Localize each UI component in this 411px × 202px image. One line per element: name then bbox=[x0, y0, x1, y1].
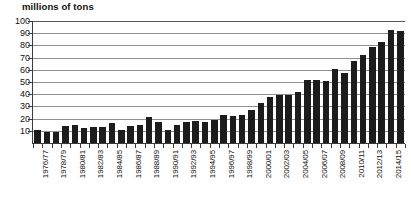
bar bbox=[192, 121, 199, 143]
x-axis-tick-label: 2000/01 bbox=[264, 150, 273, 178]
gridline bbox=[33, 82, 405, 83]
x-axis-tick-label: 1996/97 bbox=[227, 150, 236, 178]
x-axis-tick-label: 2012/13 bbox=[375, 150, 384, 178]
x-axis-tick-label: 2006/07 bbox=[320, 150, 329, 178]
x-axis-tick-label: 1980/81 bbox=[78, 150, 87, 178]
x-axis-tick-label: 2004/05 bbox=[301, 150, 310, 178]
bar bbox=[109, 123, 116, 143]
x-axis-tick-label: 1976/77 bbox=[41, 150, 50, 178]
bar bbox=[183, 122, 190, 143]
x-axis-tick-labels: 1976/771978/791980/811982/831984/851986/… bbox=[33, 150, 405, 202]
x-axis-tick-mark bbox=[33, 144, 34, 148]
x-axis-tick-mark bbox=[349, 144, 350, 148]
gridline bbox=[33, 58, 405, 59]
x-axis-tick-mark bbox=[359, 144, 360, 148]
bar bbox=[332, 69, 339, 143]
x-axis-tick-marks bbox=[33, 144, 405, 149]
x-axis-tick-mark bbox=[266, 144, 267, 148]
x-axis-tick-mark bbox=[98, 144, 99, 148]
x-axis-tick-label: 1984/85 bbox=[115, 150, 124, 178]
x-axis-tick-mark bbox=[210, 144, 211, 148]
gridline bbox=[33, 119, 405, 120]
gridline bbox=[33, 21, 405, 22]
bar bbox=[62, 126, 69, 143]
x-axis-tick-mark bbox=[135, 144, 136, 148]
x-axis-tick-mark bbox=[182, 144, 183, 148]
y-axis-tick-label: 20 bbox=[4, 114, 30, 124]
x-axis-tick-label: 1988/89 bbox=[152, 150, 161, 178]
x-axis-tick-mark bbox=[173, 144, 174, 148]
x-axis-tick-mark bbox=[368, 144, 369, 148]
bar bbox=[174, 125, 181, 143]
x-axis-tick-mark bbox=[70, 144, 71, 148]
bar bbox=[155, 122, 162, 143]
x-axis-tick-mark bbox=[117, 144, 118, 148]
y-axis-tick-label: 90 bbox=[4, 28, 30, 38]
y-axis-tick-label: 80 bbox=[4, 40, 30, 50]
bar bbox=[118, 130, 125, 143]
y-axis-tick-label: 100 bbox=[4, 16, 30, 26]
x-axis-tick-mark bbox=[312, 144, 313, 148]
bar bbox=[239, 115, 246, 143]
x-axis-tick-mark bbox=[191, 144, 192, 148]
bar bbox=[220, 115, 227, 143]
bar bbox=[230, 116, 237, 143]
x-axis-tick-mark bbox=[154, 144, 155, 148]
bar bbox=[267, 97, 274, 143]
bar bbox=[276, 95, 283, 143]
bar bbox=[388, 30, 395, 143]
x-axis-tick-label: 1982/83 bbox=[96, 150, 105, 178]
gridline bbox=[33, 106, 405, 107]
y-axis-tick-label: 70 bbox=[4, 53, 30, 63]
x-axis-tick-label: 2008/09 bbox=[338, 150, 347, 178]
bar bbox=[341, 73, 348, 143]
y-axis-tick-label: 50 bbox=[4, 77, 30, 87]
x-axis-tick-mark bbox=[126, 144, 127, 148]
x-axis-tick-label: 2010/11 bbox=[357, 150, 366, 178]
x-axis-tick-mark bbox=[163, 144, 164, 148]
bar-chart: millions of tons 102030405060708090100 1… bbox=[0, 0, 411, 202]
y-axis-tick-labels: 102030405060708090100 bbox=[0, 0, 30, 202]
x-axis-tick-mark bbox=[275, 144, 276, 148]
x-axis-tick-mark bbox=[80, 144, 81, 148]
x-axis-tick-mark bbox=[228, 144, 229, 148]
x-axis-tick-mark bbox=[303, 144, 304, 148]
x-axis-tick-mark bbox=[238, 144, 239, 148]
x-axis-tick-mark bbox=[219, 144, 220, 148]
bar bbox=[34, 130, 41, 143]
bar bbox=[304, 80, 311, 143]
x-axis-tick-mark bbox=[284, 144, 285, 148]
x-axis-tick-mark bbox=[377, 144, 378, 148]
bar bbox=[248, 110, 255, 143]
bar bbox=[99, 127, 106, 143]
bar bbox=[323, 81, 330, 143]
bar bbox=[165, 130, 172, 143]
gridline bbox=[33, 94, 405, 95]
y-axis-tick-label: 40 bbox=[4, 89, 30, 99]
x-axis-tick-mark bbox=[405, 144, 406, 148]
x-axis-tick-mark bbox=[331, 144, 332, 148]
y-axis-tick-label: 60 bbox=[4, 65, 30, 75]
x-axis-tick-mark bbox=[386, 144, 387, 148]
bar bbox=[72, 125, 79, 143]
x-axis-tick-mark bbox=[89, 144, 90, 148]
x-axis-tick-mark bbox=[396, 144, 397, 148]
gridline bbox=[33, 45, 405, 46]
x-axis-tick-label: 1978/79 bbox=[59, 150, 68, 178]
x-axis-tick-mark bbox=[200, 144, 201, 148]
gridline bbox=[33, 131, 405, 132]
x-axis-tick-label: 1992/93 bbox=[189, 150, 198, 178]
x-axis-tick-label: 1994/95 bbox=[208, 150, 217, 178]
bar bbox=[44, 132, 51, 143]
bar bbox=[360, 55, 367, 143]
x-axis-tick-mark bbox=[42, 144, 43, 148]
gridline bbox=[33, 33, 405, 34]
x-axis-tick-label: 1998/99 bbox=[245, 150, 254, 178]
y-axis-tick-label: 10 bbox=[4, 126, 30, 136]
bar bbox=[285, 95, 292, 143]
x-axis-tick-label: 1986/87 bbox=[134, 150, 143, 178]
x-axis-tick-mark bbox=[61, 144, 62, 148]
x-axis-tick-mark bbox=[145, 144, 146, 148]
x-axis-tick-mark bbox=[321, 144, 322, 148]
x-axis-tick-label: 2014/15 bbox=[394, 150, 403, 178]
